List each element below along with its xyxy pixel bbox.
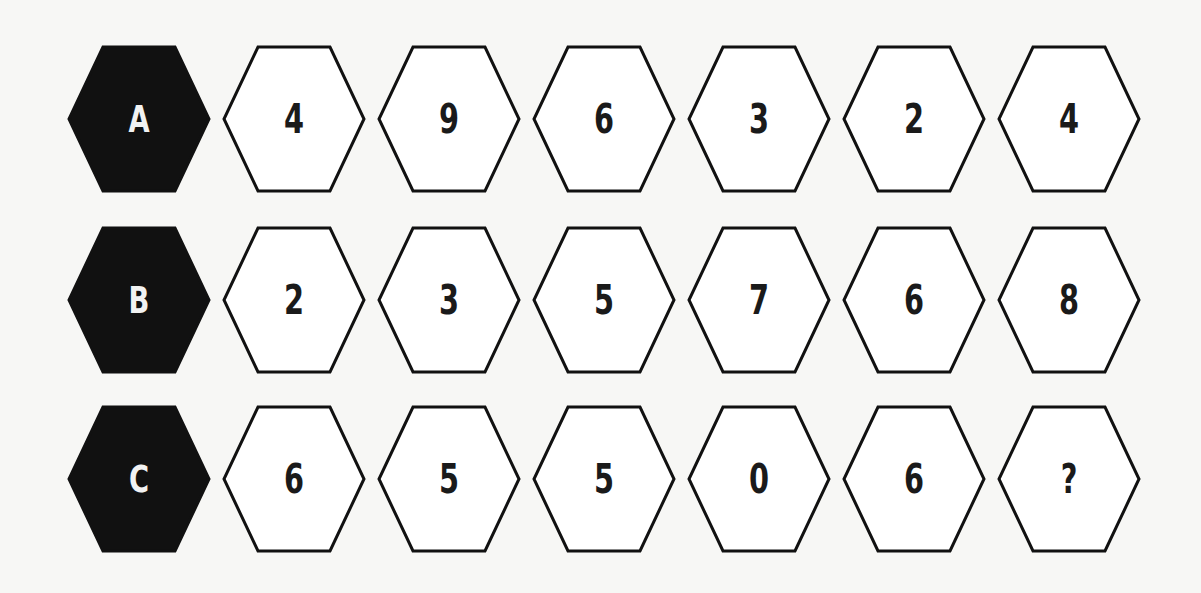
missing-value-hexagon: ? (997, 405, 1141, 553)
cell-value-text: 5 (552, 405, 656, 553)
value-hexagon: 6 (532, 45, 676, 193)
value-hexagon: 5 (532, 405, 676, 553)
value-hexagon: 0 (687, 405, 831, 553)
value-hexagon: 5 (377, 405, 521, 553)
cell-value-text: 9 (397, 45, 501, 193)
value-hexagon: 7 (687, 226, 831, 374)
value-hexagon: 6 (842, 226, 986, 374)
cell-value-text: 6 (242, 405, 346, 553)
cell-value-text: 3 (707, 45, 811, 193)
value-hexagon: 8 (997, 226, 1141, 374)
value-hexagon: 2 (222, 226, 366, 374)
cell-value-text: 6 (862, 226, 966, 374)
row-label-text: A (87, 45, 191, 193)
cell-value-text: 4 (242, 45, 346, 193)
value-hexagon: 3 (377, 226, 521, 374)
cell-value-text: 3 (397, 226, 501, 374)
cell-value-text: 7 (707, 226, 811, 374)
cell-value-text: 2 (242, 226, 346, 374)
row-label-hexagon: B (67, 226, 211, 374)
puzzle-row-a: A496324 (0, 45, 1201, 195)
value-hexagon: 4 (222, 45, 366, 193)
cell-value-text: 6 (862, 405, 966, 553)
value-hexagon: 4 (997, 45, 1141, 193)
cell-value-text: 5 (397, 405, 501, 553)
value-hexagon: 2 (842, 45, 986, 193)
cell-value-text: 6 (552, 45, 656, 193)
value-hexagon: 9 (377, 45, 521, 193)
puzzle-row-c: C65506? (0, 405, 1201, 555)
value-hexagon: 6 (222, 405, 366, 553)
cell-value-text: 5 (552, 226, 656, 374)
value-hexagon: 5 (532, 226, 676, 374)
cell-value-text: 4 (1017, 45, 1121, 193)
cell-value-text: 2 (862, 45, 966, 193)
cell-value-text: 8 (1017, 226, 1121, 374)
row-label-hexagon: A (67, 45, 211, 193)
row-label-hexagon: C (67, 405, 211, 553)
value-hexagon: 3 (687, 45, 831, 193)
puzzle-row-b: B235768 (0, 226, 1201, 376)
cell-value-text: 0 (707, 405, 811, 553)
value-hexagon: 6 (842, 405, 986, 553)
row-label-text: B (87, 226, 191, 374)
row-label-text: C (87, 405, 191, 553)
cell-value-text: ? (1017, 405, 1121, 553)
